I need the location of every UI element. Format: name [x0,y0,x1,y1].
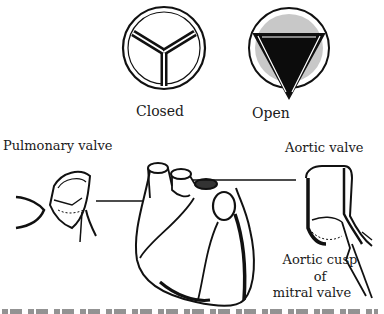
open-label: Open [252,106,290,120]
closed-valve-illustration [123,7,205,89]
caption-text-fragment [2,309,378,314]
heart-illustration [136,163,296,306]
figure-caption-cropped [0,306,384,314]
heart-valves-figure: Closed Open Pulmonary valve Aortic valve… [0,0,384,314]
aortic-valve-label: Aortic valve [285,141,364,154]
pulmonary-valve-label: Pulmonary valve [3,139,113,152]
aortic-cusp-label-line1: Aortic cusp [270,253,370,266]
aortic-cusp-label-line3: mitral valve [262,286,362,299]
aortic-cusp-label-line2: of [270,270,370,283]
closed-label: Closed [136,104,184,118]
open-valve-illustration [249,8,329,98]
